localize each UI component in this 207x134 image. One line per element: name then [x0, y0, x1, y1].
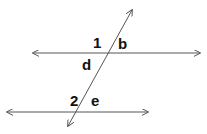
angle-b-label: b	[118, 35, 127, 52]
angle-e-label: e	[91, 92, 99, 109]
diagram-canvas: 1 b d 2 e	[0, 0, 207, 134]
angle-d-label: d	[82, 56, 91, 73]
angle-2-label: 2	[70, 92, 78, 109]
angle-1-label: 1	[93, 34, 101, 51]
